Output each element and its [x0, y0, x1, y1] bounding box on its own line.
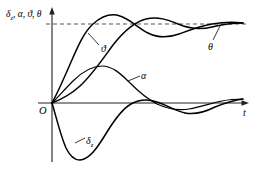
- label-delta-z: δz: [86, 135, 94, 148]
- label-x-axis: t: [243, 107, 246, 118]
- label-theta: θ: [208, 41, 213, 52]
- curve-theta: [52, 18, 243, 103]
- annotation-vartheta: ϑ: [88, 33, 107, 54]
- label-y-axis: δz, α, ϑ, θ: [6, 9, 42, 21]
- plot-canvas: ϑ α θ δz O δz, α, ϑ, θ t: [0, 0, 257, 178]
- curve-delta-z: [52, 99, 243, 160]
- curve-vartheta: [52, 15, 243, 103]
- label-origin: O: [39, 105, 47, 116]
- x-axis-arrowhead: [242, 100, 250, 106]
- y-axis-arrowhead: [49, 7, 55, 15]
- annotation-theta: θ: [208, 26, 220, 52]
- label-alpha: α: [141, 70, 147, 81]
- annotation-delta-z: δz: [75, 135, 94, 148]
- y-axis: [49, 7, 55, 162]
- x-axis: [38, 100, 249, 106]
- control-response-figure: ϑ α θ δz O δz, α, ϑ, θ t: [0, 0, 257, 178]
- annotation-alpha: α: [128, 70, 147, 81]
- label-vartheta: ϑ: [101, 43, 107, 54]
